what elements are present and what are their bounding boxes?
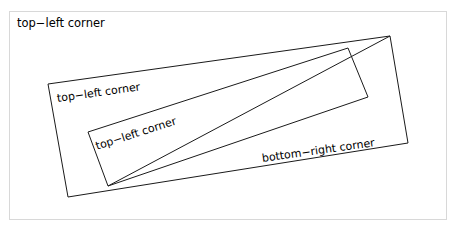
label-top-left-corner-title: top−left corner <box>17 18 105 30</box>
outer-rotated-rectangle <box>48 36 408 197</box>
screenshot-root: top−left corner top−left corner top−left… <box>0 0 456 234</box>
corner-connector-line <box>108 36 390 186</box>
figure-canvas <box>0 0 456 234</box>
inner-rotated-rectangle <box>88 48 368 186</box>
